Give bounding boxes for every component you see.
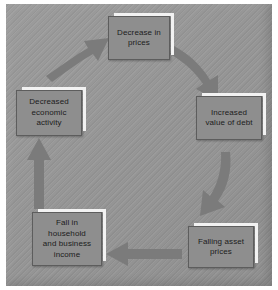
node-label: Decreasedeconomicactivity — [26, 97, 72, 129]
node-label: Fall inhouseholdand businessincome — [40, 218, 94, 260]
node-label: Increasedvalue of debt — [202, 108, 255, 129]
arrow-bottomright-to-bottomleft — [106, 242, 182, 266]
arrow-left-to-top — [46, 38, 109, 82]
node-decreased-economic-activity[interactable]: Decreasedeconomicactivity — [16, 90, 82, 136]
node-falling-asset-prices[interactable]: Falling assetprices — [188, 226, 254, 268]
arrow-top-to-right — [170, 46, 218, 101]
node-increased-value-of-debt[interactable]: Increasedvalue of debt — [196, 96, 262, 140]
node-label: Falling assetprices — [195, 237, 247, 258]
node-fall-in-income[interactable]: Fall inhouseholdand businessincome — [32, 212, 102, 266]
arrow-right-to-bottomright — [200, 152, 231, 216]
deflationary-spiral-figure: Decrease inprices Increasedvalue of debt… — [0, 0, 278, 290]
node-decrease-in-prices[interactable]: Decrease inprices — [108, 16, 170, 60]
diagram-panel: Decrease inprices Increasedvalue of debt… — [6, 4, 272, 286]
arrow-bottomleft-to-left — [27, 138, 51, 209]
node-label: Decrease inprices — [114, 28, 164, 49]
